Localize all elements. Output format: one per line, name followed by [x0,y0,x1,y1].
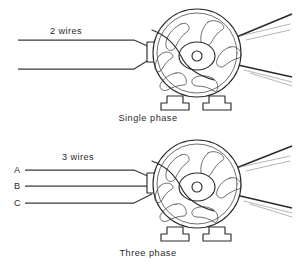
motor-wiring-figure: 2 wires [0,0,296,271]
shaft-hub-bore-2 [192,182,202,192]
shaft-hub-bore [192,51,202,61]
belt-hatch-upper-2 [246,30,290,40]
phase-label-b: B [14,181,21,191]
three-phase-diagram: 3 wires A B C [14,140,292,258]
supply-wire-a [25,170,152,178]
three-phase-caption: Three phase [119,248,176,258]
three-phase-supply-wires [25,170,152,203]
supply-wire-1 [18,40,152,48]
belt-hatch-upper-2b [246,161,290,171]
phase-label-c: C [14,198,21,208]
single-phase-diagram: 2 wires [18,9,292,123]
belt-hatch-upper-2a [240,156,290,167]
three-phase-mounting-feet [161,227,231,241]
single-phase-caption: Single phase [118,113,177,123]
mounting-foot-left-2 [161,227,189,241]
three-phase-wire-count-label: 3 wires [62,152,94,162]
mounting-foot-left [161,96,189,110]
mounting-foot-right-2 [203,227,231,241]
supply-wire-c [25,194,152,203]
single-phase-supply-wires [18,40,152,69]
mounting-foot-right [203,96,231,110]
single-phase-mounting-feet [161,96,231,110]
figure-canvas: 2 wires [0,0,296,271]
supply-wire-2 [18,58,152,69]
phase-label-a: A [14,165,21,175]
single-phase-wire-count-label: 2 wires [50,26,82,36]
